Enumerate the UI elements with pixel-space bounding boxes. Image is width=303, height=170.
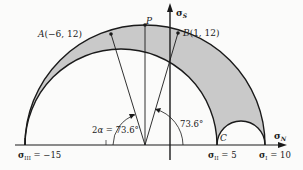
angle-left-label: 2α = 73.6°: [92, 125, 139, 135]
angle-arrow-left-icon: [129, 114, 135, 119]
sigma-n-arrow-icon: [278, 142, 287, 148]
point-A: [109, 32, 113, 36]
point-C-label: C: [220, 133, 227, 143]
sigma-iii-label: σIII = −15: [18, 150, 61, 161]
point-P-label: P: [145, 16, 153, 26]
point-B: [176, 31, 180, 35]
sigma-n-label: σN: [274, 131, 287, 142]
point-B-label: B(1, 12): [182, 28, 220, 38]
sigma-s-arrow-icon: [167, 3, 173, 12]
point-A-label: A(−6, 12): [37, 29, 82, 39]
sigma-s-label: σS: [176, 8, 188, 19]
mohr-circle-diagram: A(−6, 12) P B(1, 12) C σS σN 2α = 73.6° …: [0, 0, 303, 170]
sigma-ii-label: σII = 5: [208, 150, 237, 161]
angle-arc-right: [155, 109, 183, 145]
sigma-i-label: σI = 10: [259, 150, 291, 161]
angle-right-label: 73.6°: [180, 119, 203, 129]
